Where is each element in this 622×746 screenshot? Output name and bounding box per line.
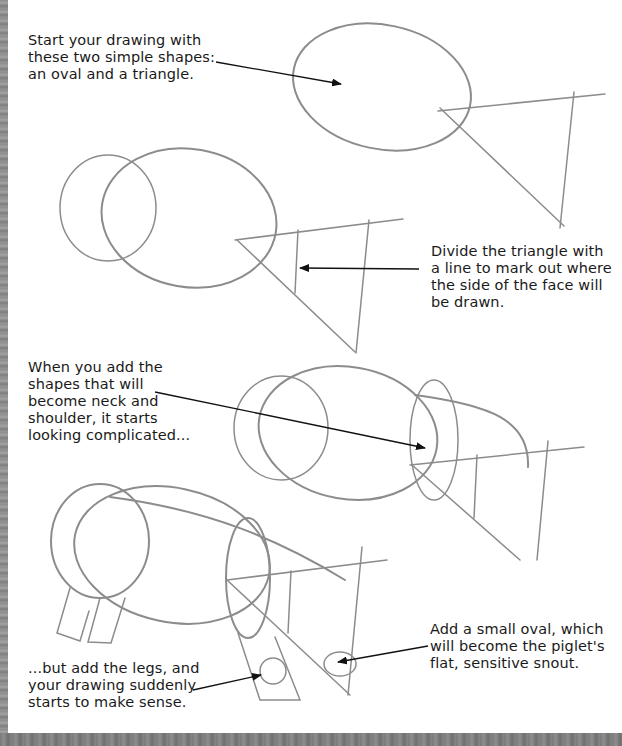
caption-step4: ...but add the legs, and your drawing su…: [28, 660, 199, 711]
illustration-step1: [216, 8, 605, 228]
illustration-step2: [60, 135, 419, 353]
illustration-step3: [155, 352, 584, 560]
arrow-step1: [216, 62, 341, 84]
arrow-step3: [155, 392, 425, 448]
caption-step2: Divide the triangle with a line to mark …: [431, 243, 612, 311]
caption-step3: When you add the shapes that will become…: [28, 359, 190, 444]
arrow-legs: [193, 675, 261, 690]
caption-step1: Start your drawing with these two simple…: [28, 32, 215, 83]
caption-step5: Add a small oval, which will become the …: [430, 621, 605, 672]
arrow-step2: [300, 268, 419, 269]
